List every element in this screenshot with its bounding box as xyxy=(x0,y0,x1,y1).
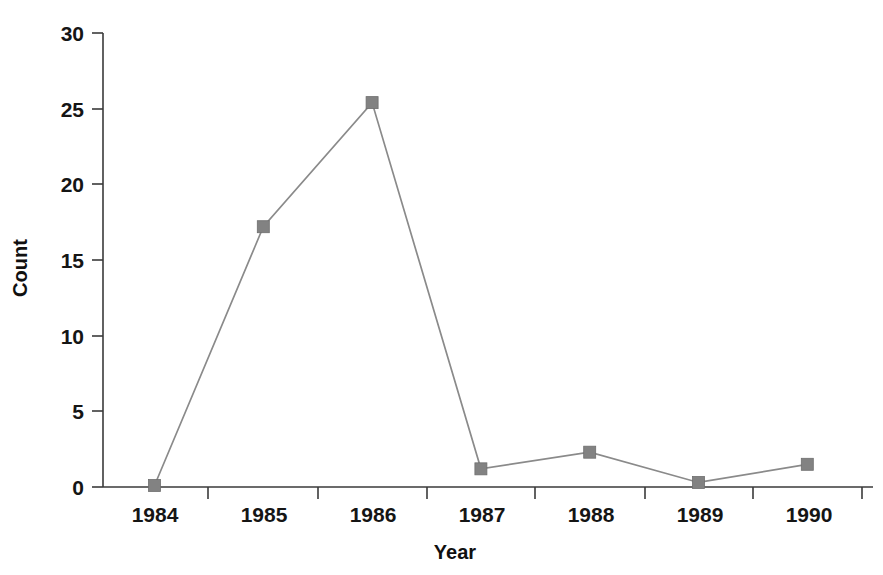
x-tick-label-1986: 1986 xyxy=(350,503,397,526)
y-tick-label-15: 15 xyxy=(61,249,85,272)
line-chart-canvas: 30 25 20 15 10 5 0 1984 1985 1986 1987 1… xyxy=(0,0,883,575)
x-axis-title: Year xyxy=(434,541,476,563)
x-tick-label-1985: 1985 xyxy=(241,503,288,526)
x-tick-label-1984: 1984 xyxy=(132,503,179,526)
y-tick-label-20: 20 xyxy=(61,173,84,196)
x-tick-label-1987: 1987 xyxy=(459,503,506,526)
data-point-1987 xyxy=(475,463,487,475)
y-tick-label-30: 30 xyxy=(61,22,84,45)
data-point-1986 xyxy=(366,97,378,109)
data-point-1984 xyxy=(149,479,161,491)
y-tick-label-0: 0 xyxy=(72,476,84,499)
chart-figure: 30 25 20 15 10 5 0 1984 1985 1986 1987 1… xyxy=(0,0,883,575)
data-point-1988 xyxy=(584,446,596,458)
y-tick-label-5: 5 xyxy=(72,400,84,423)
y-tick-label-25: 25 xyxy=(61,98,85,121)
chart-background xyxy=(0,0,883,575)
x-tick-label-1990: 1990 xyxy=(786,503,833,526)
x-tick-label-1988: 1988 xyxy=(568,503,615,526)
y-axis-title: Count xyxy=(9,239,31,297)
data-point-1985 xyxy=(257,221,269,233)
data-point-1989 xyxy=(693,476,705,488)
x-tick-label-1989: 1989 xyxy=(677,503,724,526)
y-tick-label-10: 10 xyxy=(61,325,84,348)
data-point-1990 xyxy=(801,458,813,470)
